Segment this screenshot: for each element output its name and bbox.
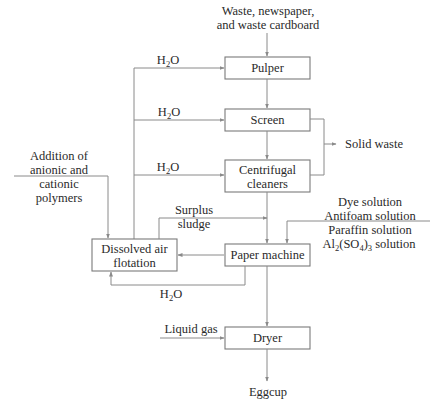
- output-label-solid-waste: Solid waste: [345, 137, 403, 151]
- output-label-surplus-line1: Surplus: [175, 203, 213, 217]
- water-label-cleaners: H2O: [157, 160, 179, 176]
- node-paper-machine-label: Paper machine: [231, 248, 305, 262]
- input-label-polymers-line1: Addition of: [30, 149, 89, 163]
- node-cleaners-label-line1: Centrifugal: [239, 163, 296, 177]
- node-paper-machine: Paper machine: [225, 244, 310, 266]
- water-label-return: H2O: [160, 287, 182, 303]
- input-label-polymers-line4: polymers: [36, 191, 83, 205]
- solid-waste-bracket: [310, 119, 324, 175]
- node-daf-label-line1: Dissolved air: [101, 242, 168, 256]
- water-label-pulper: H2O: [157, 53, 179, 69]
- node-dissolved-air-flotation: Dissolved air flotation: [92, 239, 177, 271]
- node-screen: Screen: [225, 109, 310, 131]
- node-cleaners-label-line2: cleaners: [247, 177, 288, 191]
- arrow-surplus-sludge: [159, 218, 267, 239]
- input-label-paraffin: Paraffin solution: [328, 223, 412, 237]
- input-label-polymers-line3: cationic: [39, 177, 79, 191]
- input-label-liquid-gas: Liquid gas: [164, 322, 217, 336]
- water-label-screen: H2O: [158, 105, 180, 121]
- input-label-dye: Dye solution: [338, 195, 403, 209]
- node-dryer: Dryer: [225, 327, 310, 349]
- node-daf-label-line2: flotation: [113, 256, 156, 270]
- process-flow-diagram: Waste, newspaper, and waste cardboard Pu…: [0, 0, 434, 405]
- node-screen-label: Screen: [250, 113, 285, 127]
- input-label-alum: Al2(SO4)3 solution: [323, 237, 417, 253]
- input-label-polymers-line2: anionic and: [30, 163, 89, 177]
- node-pulper-label: Pulper: [251, 61, 284, 75]
- node-pulper: Pulper: [225, 57, 310, 79]
- input-label-waste-line1: Waste, newspaper,: [222, 4, 315, 18]
- node-dryer-label: Dryer: [253, 331, 283, 345]
- output-label-surplus-line2: sludge: [178, 217, 211, 231]
- output-label-eggcup: Eggcup: [249, 385, 287, 399]
- node-centrifugal-cleaners: Centrifugal cleaners: [225, 160, 310, 192]
- input-label-waste-line2: and waste cardboard: [217, 18, 320, 32]
